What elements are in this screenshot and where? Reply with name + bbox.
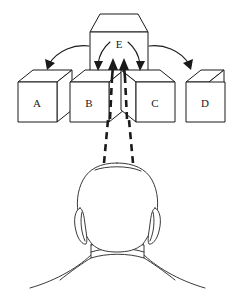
person-head bbox=[75, 163, 161, 252]
cube-label-d: D bbox=[201, 97, 209, 109]
arrow-e-to-a-shaft bbox=[49, 46, 89, 64]
gaze-line-left bbox=[104, 120, 108, 163]
arrow-e-to-d bbox=[149, 46, 193, 70]
cube-e-top-face bbox=[90, 14, 148, 32]
gaze-line-left-dashes bbox=[104, 120, 108, 163]
shoulder-left-line bbox=[30, 254, 92, 288]
gaze-line-right bbox=[129, 120, 133, 163]
shoulder-right-line bbox=[143, 254, 205, 288]
arrow-e-to-a bbox=[45, 46, 89, 70]
head-outline bbox=[77, 163, 157, 252]
neck-shoulder-right bbox=[144, 258, 175, 280]
cube-c bbox=[121, 70, 175, 122]
figure-container: A B C D E bbox=[0, 0, 235, 298]
diagram-svg: A B C D E bbox=[0, 0, 235, 298]
arrow-e-to-d-head bbox=[183, 59, 193, 70]
cube-label-c: C bbox=[151, 97, 158, 109]
cube-label-a: A bbox=[33, 97, 41, 109]
cube-a bbox=[18, 70, 72, 122]
arrow-e-to-a-head bbox=[45, 59, 55, 70]
gaze-line-right-dashes bbox=[129, 120, 133, 163]
neck-shoulder-left bbox=[60, 258, 91, 280]
cube-label-b: B bbox=[85, 97, 92, 109]
arrow-e-to-d-shaft bbox=[149, 46, 189, 64]
person-shoulders bbox=[30, 254, 205, 288]
cube-b bbox=[70, 70, 124, 122]
cube-label-e: E bbox=[116, 38, 123, 50]
